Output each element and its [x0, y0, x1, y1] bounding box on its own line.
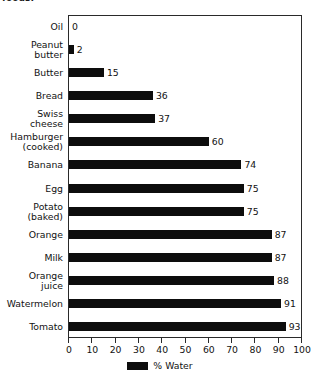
bar-row: Hamburger(cooked)60 [0, 130, 320, 153]
bar [69, 160, 241, 169]
bar [69, 137, 209, 146]
bar-row: Butter15 [0, 61, 320, 84]
x-axis-tick-label: 10 [86, 344, 98, 355]
bar [69, 22, 70, 31]
category-label-line: Milk [0, 253, 63, 263]
chart-legend: % Water [0, 360, 320, 371]
bar-row: Potato(baked)75 [0, 200, 320, 223]
bar [69, 299, 281, 308]
category-label: Egg [0, 184, 63, 194]
category-label: Butter [0, 68, 63, 78]
bar [69, 230, 272, 239]
category-label-line: Butter [0, 68, 63, 78]
category-label: Oil [0, 22, 63, 32]
bar-row: Watermelon91 [0, 292, 320, 315]
bar-row: Peanutbutter2 [0, 38, 320, 61]
category-label-line: cheese [0, 119, 63, 129]
x-axis-tick [138, 338, 139, 343]
bar-fill [69, 322, 286, 331]
category-label: Watermelon [0, 299, 63, 309]
bar-fill [69, 114, 155, 123]
x-axis-tick [68, 338, 69, 343]
x-axis-tick-labels: 0102030405060708090100 [0, 344, 320, 356]
category-label-line: Tomato [0, 322, 63, 332]
bar-value-label: 36 [156, 90, 168, 101]
bar-fill [69, 45, 74, 54]
category-label: Orange [0, 230, 63, 240]
category-label: Potato(baked) [0, 202, 63, 222]
bar [69, 276, 274, 285]
bar-value-label: 91 [284, 298, 296, 309]
category-label: Hamburger(cooked) [0, 132, 63, 152]
category-label-line: Egg [0, 184, 63, 194]
bar-value-label: 37 [158, 113, 170, 124]
bar-fill [69, 160, 241, 169]
bar-row: Egg75 [0, 177, 320, 200]
bar-row: Banana74 [0, 153, 320, 176]
bar-row: Oil0 [0, 15, 320, 38]
category-label-line: (cooked) [0, 142, 63, 152]
bar-value-label: 87 [275, 252, 287, 263]
bar-value-label: 0 [72, 21, 78, 32]
category-label-line: Banana [0, 160, 63, 170]
x-axis-tick [278, 338, 279, 343]
x-axis-tick [208, 338, 209, 343]
x-axis-tick-label: 30 [133, 344, 145, 355]
category-label: Tomato [0, 322, 63, 332]
bar-fill [69, 230, 272, 239]
bar-fill [69, 253, 272, 262]
bar [69, 114, 155, 123]
category-label: Swisscheese [0, 109, 63, 129]
bar-value-label: 60 [212, 136, 224, 147]
bar-value-label: 88 [277, 275, 289, 286]
x-axis-tick-label: 80 [249, 344, 261, 355]
bar-fill [69, 207, 244, 216]
bar-value-label: 93 [289, 321, 301, 332]
bar-fill [69, 137, 209, 146]
x-axis-tick-label: 100 [293, 344, 311, 355]
legend-label-percent-water: % Water [153, 360, 192, 371]
x-axis-tick-label: 90 [273, 344, 285, 355]
horizontal-bar-chart: Oil0Peanutbutter2Butter15Bread36Swissche… [0, 0, 320, 379]
category-label: Bread [0, 91, 63, 101]
bar-fill [69, 91, 153, 100]
bar-row: Swisscheese37 [0, 107, 320, 130]
category-label-line: Orange [0, 230, 63, 240]
bar [69, 253, 272, 262]
bar-value-label: 74 [244, 159, 256, 170]
bar [69, 91, 153, 100]
category-label-line: Watermelon [0, 299, 63, 309]
category-label-line: Bread [0, 91, 63, 101]
category-label-line: juice [0, 281, 63, 291]
bar-value-label: 75 [247, 183, 259, 194]
category-label-line: Oil [0, 22, 63, 32]
bar-value-label: 87 [275, 229, 287, 240]
bar-row: Tomato93 [0, 315, 320, 338]
x-axis-tick-label: 50 [180, 344, 192, 355]
x-axis-tick [231, 338, 232, 343]
bar [69, 184, 244, 193]
bar-value-label: 75 [247, 206, 259, 217]
bar-row: Orange87 [0, 223, 320, 246]
x-axis-tick-label: 20 [110, 344, 122, 355]
x-axis-tick [254, 338, 255, 343]
bar-fill [69, 276, 274, 285]
bar-value-label: 15 [107, 67, 119, 78]
x-axis-tick-label: 0 [66, 344, 72, 355]
x-axis-tick [91, 338, 92, 343]
bar-fill [69, 299, 281, 308]
bar [69, 68, 104, 77]
bar [69, 322, 286, 331]
bar-row: Orangejuice88 [0, 269, 320, 292]
category-label-line: butter [0, 50, 63, 60]
bar-fill [69, 184, 244, 193]
bar-fill [69, 68, 104, 77]
x-axis-tick-label: 60 [203, 344, 215, 355]
x-axis-tick [115, 338, 116, 343]
bar [69, 207, 244, 216]
x-axis-tick [301, 338, 302, 343]
category-label: Banana [0, 160, 63, 170]
bar-row: Milk87 [0, 246, 320, 269]
x-axis-tick-label: 40 [156, 344, 168, 355]
legend-swatch-percent-water [127, 362, 148, 370]
